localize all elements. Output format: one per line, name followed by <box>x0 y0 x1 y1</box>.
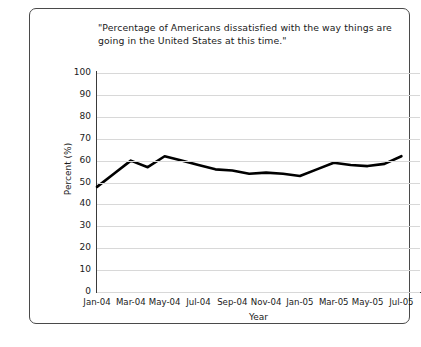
x-tick-label: Nov-04 <box>250 297 282 307</box>
x-tick-label: May-05 <box>352 297 384 307</box>
gridline <box>97 292 420 293</box>
y-tick-label: 30 <box>51 220 91 230</box>
y-tick-label: 70 <box>51 133 91 143</box>
y-tick-label: 50 <box>51 177 91 187</box>
gridline <box>97 183 420 184</box>
y-tick-label: 0 <box>51 286 91 296</box>
x-tick-label: Mar-04 <box>115 297 147 307</box>
gridline <box>97 95 420 96</box>
x-tick-label: May-04 <box>149 297 181 307</box>
gridline <box>97 248 420 249</box>
gridline <box>97 226 420 227</box>
y-tick-label: 20 <box>51 242 91 252</box>
gridline <box>97 139 420 140</box>
x-tick-label: Jan-04 <box>81 297 113 307</box>
x-tick-label: Jul-04 <box>182 297 214 307</box>
x-tick-label: Mar-05 <box>318 297 350 307</box>
chart-frame: "Percentage of Americans dissatisfied wi… <box>29 8 410 324</box>
gridline <box>97 161 420 162</box>
y-tick-label: 100 <box>51 67 91 77</box>
x-tick-label: Jan-05 <box>284 297 316 307</box>
y-tick-label: 40 <box>51 198 91 208</box>
gridline <box>97 204 420 205</box>
gridline <box>97 270 420 271</box>
gridline <box>97 117 420 118</box>
x-axis-title: Year <box>97 312 420 322</box>
y-tick-label: 90 <box>51 89 91 99</box>
y-tick-label: 60 <box>51 155 91 165</box>
plot-area <box>97 73 420 292</box>
x-tick-label: Jul-05 <box>385 297 417 307</box>
y-tick-label: 80 <box>51 111 91 121</box>
chart-title: "Percentage of Americans dissatisfied wi… <box>98 21 394 47</box>
y-tick-label: 10 <box>51 264 91 274</box>
gridline <box>97 73 420 74</box>
x-tick-label: Sep-04 <box>216 297 248 307</box>
